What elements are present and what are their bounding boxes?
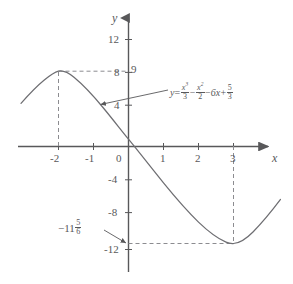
- y-tick-label-8: 8: [114, 67, 120, 78]
- equation-term-2-denominator: 2: [196, 93, 204, 101]
- y-tick-label-12: 12: [108, 34, 119, 45]
- minimum-leader-line: [104, 230, 126, 243]
- x-tick-label-minus1: -1: [85, 153, 94, 164]
- equation-minus-1: −: [190, 87, 196, 98]
- equation-term-4-denominator: 3: [227, 93, 233, 101]
- guide-lines-minimum: [129, 146, 234, 244]
- x-tick-label-minus2: -2: [50, 153, 59, 164]
- equation-term-4: 53: [227, 84, 233, 101]
- y-tick-label-minus4: -4: [108, 174, 117, 185]
- cubic-curve: [21, 71, 281, 244]
- minimum-value-label: −1156: [58, 219, 82, 237]
- cubic-function-graph-figure: y x -2 -1 0 1 2 3 12 8 4 -4 -8 -12 9 −11…: [0, 0, 293, 284]
- y-tick-label-minus12: -12: [104, 244, 119, 255]
- equation-equals: =: [175, 87, 181, 98]
- equation-term-1: x33: [181, 82, 189, 101]
- equation-term-3: 6x: [211, 87, 221, 98]
- x-tick-label-3: 3: [230, 153, 236, 164]
- y-tick-label-minus8: -8: [108, 207, 117, 218]
- x-tick-label-2: 2: [195, 153, 201, 164]
- maximum-value-label: 9: [131, 64, 137, 75]
- equation-term-2-exponent: 2: [201, 81, 204, 87]
- minimum-fraction-denominator: 6: [75, 228, 81, 236]
- minimum-fraction: 56: [75, 219, 81, 237]
- plot-canvas: [0, 0, 293, 284]
- y-axis-label: y: [112, 12, 117, 24]
- equation-plus: +: [220, 87, 226, 98]
- x-tick-label-1: 1: [160, 153, 166, 164]
- y-tick-label-4: 4: [114, 100, 120, 111]
- equation-term-1-denominator: 3: [181, 93, 189, 101]
- x-axis-label: x: [272, 152, 277, 164]
- minimum-whole-part: −11: [58, 222, 75, 234]
- equation-label: y=x33−x22−6x+53: [170, 82, 233, 101]
- equation-term-2: x22: [196, 82, 204, 101]
- x-tick-label-zero: 0: [116, 153, 122, 164]
- equation-term-1-exponent: 3: [185, 81, 188, 87]
- equation-leader-line: [101, 90, 169, 105]
